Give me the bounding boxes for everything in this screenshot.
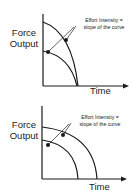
x-axis-label: Time — [90, 85, 111, 96]
pointer-line-inner — [48, 27, 74, 52]
outer-curve — [42, 127, 97, 179]
annotation-line2: slope of the curve — [75, 24, 133, 31]
annotation: Effort Intensity = slope of the curve — [75, 17, 133, 31]
y-axis-label: Force Output — [6, 119, 42, 141]
diagram-bottom: Force Output Time Effort Intensity = slo… — [0, 97, 133, 194]
outer-curve — [43, 22, 78, 86]
x-axis-label: Time — [89, 181, 110, 192]
pointer-line-inner — [48, 124, 69, 145]
annotation-line1: Effort Intensity = — [71, 114, 129, 121]
y-axis-label-line2: Output — [6, 38, 42, 49]
x-axis-arrow-icon — [123, 84, 129, 89]
y-axis-label-line2: Output — [6, 130, 42, 141]
annotation-line2: slope of the curve — [71, 121, 129, 128]
annotation-line1: Effort Intensity = — [75, 17, 133, 24]
y-axis-label-line1: Force — [6, 119, 42, 130]
annotation: Effort Intensity = slope of the curve — [71, 114, 129, 128]
y-axis-label-line1: Force — [6, 27, 42, 38]
x-axis-arrow-icon — [121, 177, 127, 182]
diagram-top: Force Output Time Effort Intensity = slo… — [0, 0, 133, 97]
diagram-bottom-graphic — [0, 97, 133, 194]
y-axis-label: Force Output — [6, 27, 42, 49]
